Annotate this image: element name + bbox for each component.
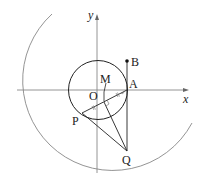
y-axis-label: y [87, 8, 94, 22]
geometry-figure: y x O A B M P Q [0, 0, 203, 180]
origin-label: O [89, 89, 98, 103]
point-P-label: P [72, 114, 79, 128]
point-A-label: A [129, 77, 138, 91]
y-axis-arrow-icon [95, 14, 99, 20]
point-M-label: M [100, 72, 111, 86]
x-axis-label: x [182, 92, 189, 106]
point-Q-label: Q [122, 153, 131, 167]
point-B [125, 59, 129, 63]
segment-MQ [104, 102, 127, 151]
point-B-label: B [131, 55, 139, 69]
large-arc [23, 14, 192, 170]
diagram-canvas: y x O A B M P Q [0, 0, 203, 180]
